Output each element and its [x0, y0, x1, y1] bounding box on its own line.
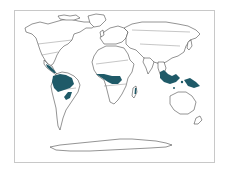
india [143, 58, 154, 74]
australia [170, 92, 196, 114]
rainforest-island [173, 87, 175, 89]
arctic-islands [58, 15, 80, 20]
new-zealand [194, 116, 202, 124]
north-america [25, 19, 96, 66]
antarctica [50, 139, 172, 151]
world-map [0, 0, 228, 174]
rainforest-island [181, 81, 183, 83]
rainforest-new-guinea [184, 78, 200, 88]
madagascar [132, 86, 137, 98]
rainforest-southeast-asia [160, 70, 180, 84]
